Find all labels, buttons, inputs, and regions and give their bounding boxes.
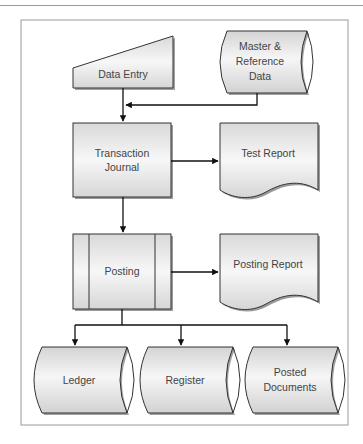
node-label: Documents xyxy=(263,381,316,393)
flowchart-canvas: Data Entry Master & Reference Data Trans… xyxy=(0,0,363,444)
node-master-reference-data: Master & Reference Data xyxy=(220,31,313,95)
node-label: Journal xyxy=(105,161,139,173)
node-posting: Posting xyxy=(73,234,173,311)
node-label: Register xyxy=(165,374,205,386)
node-label: Data Entry xyxy=(98,68,148,80)
node-label: Transaction xyxy=(95,147,150,159)
node-label: Master & xyxy=(239,40,281,52)
node-label: Posted xyxy=(274,366,307,378)
node-posted-documents: Posted Documents xyxy=(245,347,345,415)
node-label: Posting Report xyxy=(233,258,303,270)
node-label: Data xyxy=(249,70,271,82)
node-label: Posting xyxy=(104,265,139,277)
node-register: Register xyxy=(140,347,240,415)
node-label: Reference xyxy=(236,55,285,67)
node-label: Test Report xyxy=(241,147,295,159)
node-transaction-journal: Transaction Journal xyxy=(73,123,173,199)
node-ledger: Ledger xyxy=(34,347,134,415)
node-label: Ledger xyxy=(63,374,96,386)
